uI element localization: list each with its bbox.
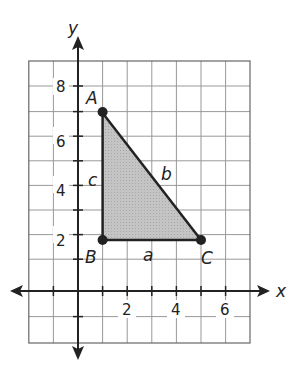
vertex-c-label: C xyxy=(201,248,213,268)
y-tick-4: 4 xyxy=(56,182,66,200)
x-axis-label: x xyxy=(275,281,287,301)
y-tick-6: 6 xyxy=(56,133,66,151)
vertex-c-point xyxy=(196,235,206,245)
vertex-a-point xyxy=(98,107,108,117)
side-a-label: a xyxy=(143,245,153,265)
x-tick-4: 4 xyxy=(171,301,181,319)
y-tick-2: 2 xyxy=(56,232,66,250)
y-tick-8: 8 xyxy=(56,78,66,96)
vertex-b-label: B xyxy=(85,247,97,267)
vertex-b-point xyxy=(98,235,108,245)
side-b-label: b xyxy=(161,164,172,184)
x-tick-2: 2 xyxy=(122,301,132,319)
y-axis-label: y xyxy=(67,18,79,38)
x-tick-6: 6 xyxy=(220,301,230,319)
side-c-label: c xyxy=(88,170,98,190)
vertex-a-label: A xyxy=(85,88,98,108)
coordinate-plane: 2 4 6 2 4 6 8 x y A B C a b c xyxy=(0,0,300,375)
